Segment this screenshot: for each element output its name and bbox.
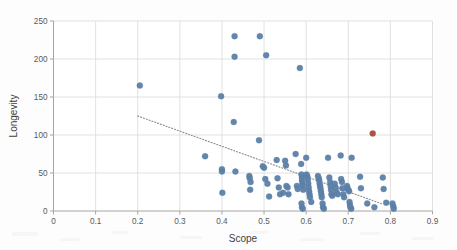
scatter-chart: 05010015020025000.10.20.30.40.50.60.70.8… <box>0 0 457 250</box>
data-point <box>391 206 397 212</box>
scan-artifact <box>360 232 380 235</box>
data-point <box>232 54 238 60</box>
data-point <box>293 151 299 157</box>
data-point <box>383 200 389 206</box>
data-point <box>232 168 238 174</box>
data-point <box>335 191 341 197</box>
data-point <box>300 206 306 212</box>
data-point <box>370 130 376 136</box>
data-point <box>300 187 306 193</box>
data-point <box>137 83 143 89</box>
scan-artifact <box>300 238 324 241</box>
data-point <box>266 194 272 200</box>
data-point <box>364 200 370 206</box>
data-point <box>349 155 355 161</box>
y-axis-ticks: 050100150200250 <box>34 17 54 216</box>
data-point <box>276 184 282 190</box>
data-point <box>274 157 280 163</box>
data-point <box>256 137 262 143</box>
x-tick-label: 0.3 <box>174 217 186 226</box>
data-point <box>325 155 331 161</box>
data-point <box>321 206 327 212</box>
data-point <box>285 191 291 197</box>
x-tick-label: 0.9 <box>427 217 439 226</box>
x-tick-label: 0.6 <box>300 217 312 226</box>
data-point <box>348 206 354 212</box>
x-tick-label: 0 <box>51 217 56 226</box>
data-point <box>371 204 377 210</box>
scan-artifact <box>412 237 434 240</box>
data-point <box>338 153 344 159</box>
data-point <box>264 181 270 187</box>
data-point <box>298 161 304 167</box>
data-point <box>357 174 363 180</box>
data-point <box>231 119 237 125</box>
scan-artifact <box>250 231 268 234</box>
data-point <box>380 175 386 181</box>
data-point <box>285 184 291 190</box>
data-point <box>346 188 352 194</box>
data-point <box>358 185 364 191</box>
data-point <box>202 153 208 159</box>
data-point <box>308 199 314 205</box>
scan-artifact <box>12 232 38 236</box>
x-axis-title: Scope <box>229 233 258 244</box>
series-highlighted-observation <box>370 130 376 136</box>
data-point <box>219 190 225 196</box>
data-point <box>283 162 289 168</box>
data-point <box>297 65 303 71</box>
data-point <box>232 33 238 39</box>
y-tick-label: 100 <box>34 131 48 140</box>
data-point <box>341 194 347 200</box>
x-tick-label: 0.2 <box>132 217 144 226</box>
x-tick-label: 0.5 <box>258 217 270 226</box>
plot-background <box>54 21 433 211</box>
x-tick-label: 0.1 <box>90 217 102 226</box>
x-tick-label: 0.4 <box>216 217 228 226</box>
data-point <box>261 165 267 171</box>
data-point <box>247 187 253 193</box>
data-point <box>218 93 224 99</box>
scan-artifact <box>180 236 202 239</box>
data-point <box>319 194 325 200</box>
scan-artifact <box>112 231 128 234</box>
data-point <box>275 175 281 181</box>
y-tick-label: 200 <box>34 55 48 64</box>
data-point <box>381 186 387 192</box>
data-point <box>257 33 263 39</box>
data-point <box>248 179 254 185</box>
data-point <box>339 179 345 185</box>
data-point <box>263 52 269 58</box>
scan-artifact <box>60 238 80 241</box>
y-tick-label: 250 <box>34 17 48 26</box>
data-point <box>219 168 225 174</box>
chart-canvas: 05010015020025000.10.20.30.40.50.60.70.8… <box>0 0 457 250</box>
data-point <box>280 190 286 196</box>
x-tick-label: 0.8 <box>385 217 397 226</box>
y-tick-label: 50 <box>38 169 48 178</box>
x-axis-ticks: 00.10.20.30.40.50.60.70.80.9 <box>51 211 438 226</box>
y-axis-title: Longevity <box>8 95 19 138</box>
y-tick-label: 150 <box>34 93 48 102</box>
data-point <box>303 155 309 161</box>
y-tick-label: 0 <box>43 207 48 216</box>
x-tick-label: 0.7 <box>343 217 355 226</box>
